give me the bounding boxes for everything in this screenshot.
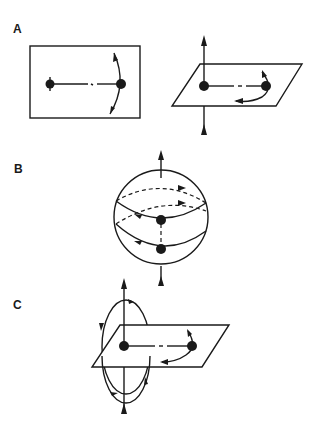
tilted-plane xyxy=(172,64,302,106)
panel-a-plane-view xyxy=(172,35,302,135)
particle-center xyxy=(199,81,209,91)
diagram-canvas xyxy=(0,0,320,436)
particle-center xyxy=(119,341,129,351)
particle-upper xyxy=(156,215,166,225)
axis-arrow-up xyxy=(158,150,164,160)
particle-right xyxy=(116,79,126,89)
particle-orbit xyxy=(261,81,271,91)
panel-c-plane-orbit xyxy=(92,278,229,414)
particle-lower xyxy=(156,244,166,254)
panel-b-sphere xyxy=(114,150,208,286)
panel-a-rectangle-view xyxy=(30,46,140,118)
axis-arrow-up xyxy=(121,278,127,289)
axis-arrow-up xyxy=(201,35,207,46)
